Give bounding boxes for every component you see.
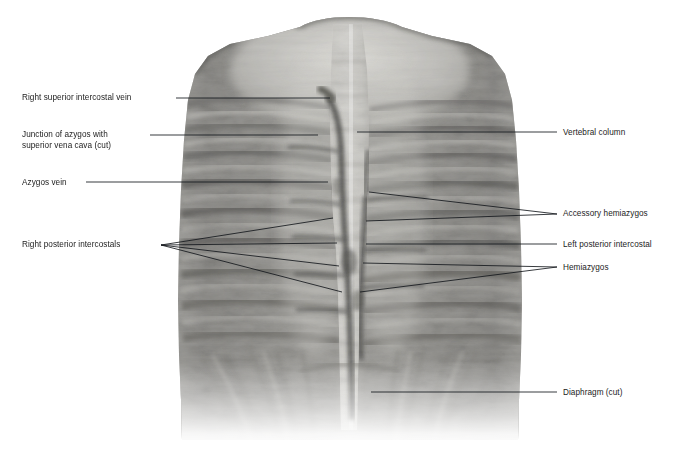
- label-vertebral-column: Vertebral column: [563, 128, 625, 139]
- label-accessory-hemiazygos: Accessory hemiazygos: [563, 209, 648, 220]
- label-left-posterior-intercostal: Left posterior intercostal: [563, 240, 652, 251]
- label-right-superior-intercostal-vein: Right superior intercostal vein: [22, 93, 131, 104]
- label-hemiazygos: Hemiazygos: [563, 263, 609, 274]
- specimen-photograph: [170, 10, 530, 450]
- label-azygos-vein: Azygos vein: [22, 178, 67, 189]
- label-diaphragm-cut: Diaphragm (cut): [563, 388, 622, 399]
- label-right-posterior-intercostals: Right posterior intercostals: [22, 240, 120, 251]
- label-junction-azygos-svc: Junction of azygos with superior vena ca…: [22, 130, 111, 151]
